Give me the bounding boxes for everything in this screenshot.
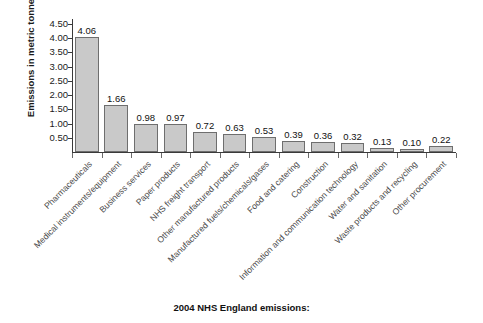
y-tick-mark	[68, 38, 72, 39]
bar-value-label: 0.36	[307, 130, 339, 141]
y-tick-label: 4.00	[24, 33, 68, 43]
y-tick-label: 0.50	[24, 133, 68, 143]
x-tick-mark	[279, 153, 280, 158]
bar-value-label: 0.10	[396, 137, 428, 148]
bar-value-label: 0.32	[337, 131, 369, 142]
bar-value-label: 0.39	[278, 129, 310, 140]
y-tick-mark	[68, 81, 72, 82]
x-tick-mark	[308, 153, 309, 158]
x-tick-mark	[456, 153, 457, 158]
y-tick-mark	[68, 95, 72, 96]
x-tick-mark	[367, 153, 368, 158]
bar	[370, 148, 394, 152]
y-tick-label: 3.50	[24, 47, 68, 57]
y-tick-label: 4.50	[24, 19, 68, 29]
bar	[134, 124, 158, 152]
x-tick-mark	[131, 153, 132, 158]
x-tick-mark	[220, 153, 221, 158]
x-axis-line	[72, 152, 456, 153]
bar	[75, 37, 99, 152]
bar	[193, 132, 217, 152]
x-tick-mark	[338, 153, 339, 158]
y-tick-mark	[68, 138, 72, 139]
bar	[429, 146, 453, 152]
bar	[341, 143, 365, 152]
x-tick-mark	[72, 153, 73, 158]
y-tick-label: 2.00	[24, 90, 68, 100]
x-tick-mark	[397, 153, 398, 158]
bar	[164, 124, 188, 152]
bar	[252, 137, 276, 152]
bar-value-label: 0.13	[366, 136, 398, 147]
x-tick-mark	[190, 153, 191, 158]
y-tick-label: 1.00	[24, 119, 68, 129]
y-axis-line	[72, 19, 73, 153]
x-tick-mark	[102, 153, 103, 158]
x-tick-mark	[161, 153, 162, 158]
y-axis-tick-labels: 4.504.003.503.002.502.001.501.000.50	[24, 14, 68, 148]
bar	[104, 105, 128, 152]
bar-value-label: 0.98	[130, 112, 162, 123]
bar	[400, 149, 424, 152]
bar	[282, 141, 306, 152]
bar-value-label: 0.97	[159, 112, 191, 123]
x-axis-category-label: Other procurement	[300, 159, 448, 307]
bar-value-label: 1.66	[100, 93, 132, 104]
x-tick-mark	[249, 153, 250, 158]
y-tick-label: 3.00	[24, 62, 68, 72]
y-tick-label: 1.50	[24, 104, 68, 114]
plot-area: 4.061.660.980.970.720.630.530.390.360.32…	[72, 19, 456, 153]
bar	[311, 142, 335, 152]
bar	[223, 134, 247, 152]
y-tick-label: 2.50	[24, 76, 68, 86]
bar-value-label: 0.72	[189, 120, 221, 131]
y-tick-mark	[68, 67, 72, 68]
bar-value-label: 0.53	[248, 125, 280, 136]
y-tick-mark	[68, 109, 72, 110]
y-tick-mark	[68, 124, 72, 125]
emissions-bar-chart-figure: Emissions in metric tonnes CO2 4.504.003…	[0, 0, 483, 323]
bar-value-label: 0.63	[218, 122, 250, 133]
bar-value-label: 4.06	[71, 25, 103, 36]
y-tick-mark	[68, 52, 72, 53]
x-tick-mark	[426, 153, 427, 158]
bar-value-label: 0.22	[425, 134, 457, 145]
